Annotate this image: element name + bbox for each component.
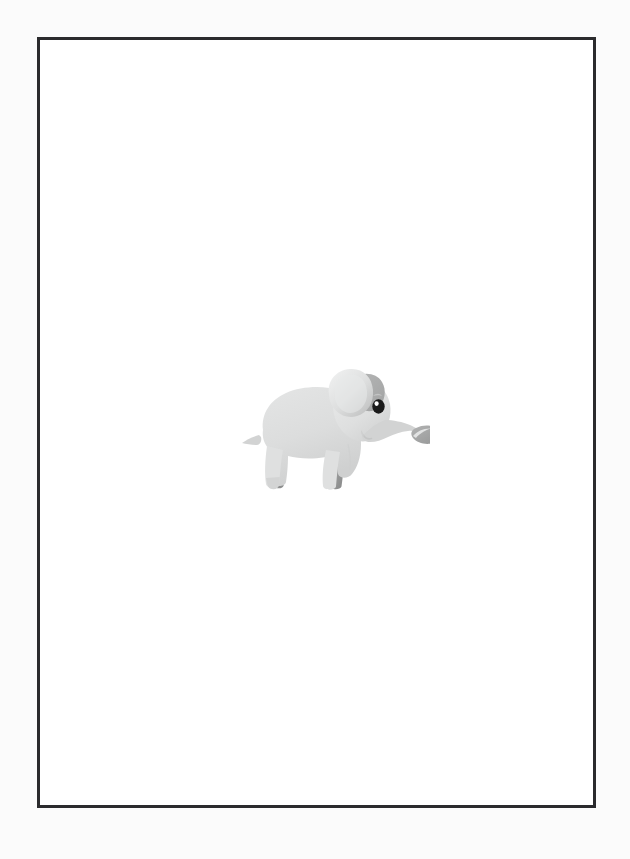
eye-highlight-shape <box>375 401 379 406</box>
ear-inner-shape <box>335 374 367 412</box>
elephant-illustration <box>230 358 430 503</box>
tail-shape <box>242 435 261 445</box>
screenshot-canvas <box>0 0 630 859</box>
hind-leg-near-hoof <box>266 477 280 489</box>
page-border-frame <box>37 37 596 808</box>
eye-shape <box>372 399 384 413</box>
page-surface <box>40 40 593 805</box>
